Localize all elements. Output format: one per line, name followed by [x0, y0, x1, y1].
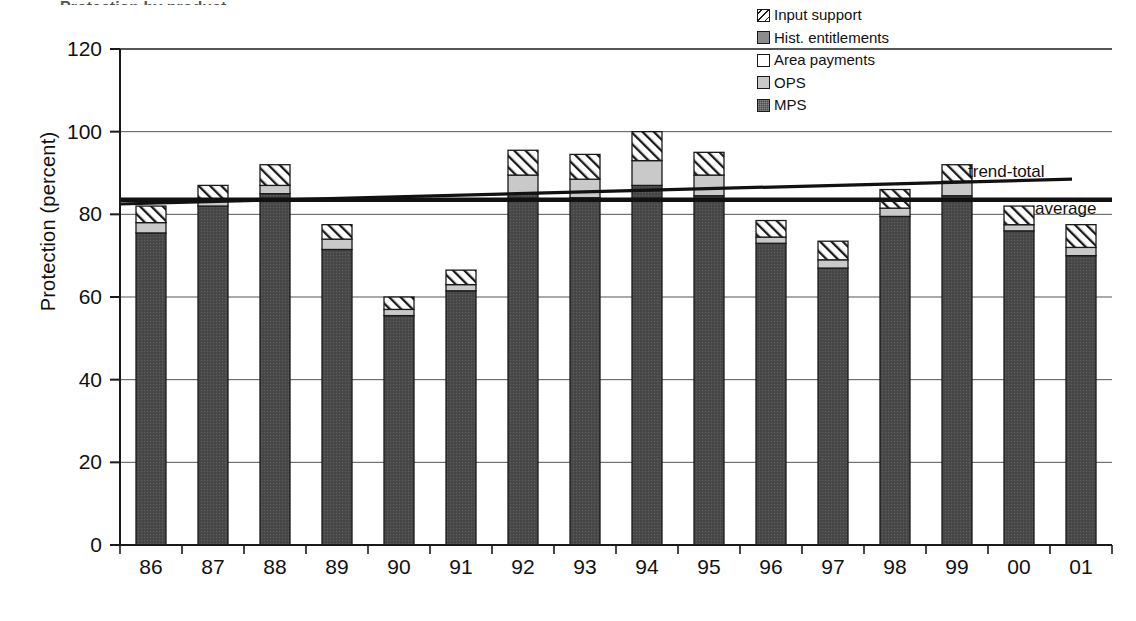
gray-swatch-icon [757, 31, 770, 44]
plot-area [0, 0, 1136, 621]
bar-segment [570, 154, 600, 179]
bar-segment [1066, 225, 1096, 248]
bar-segment [136, 206, 166, 223]
bar-segment [570, 198, 600, 545]
bar-segment [942, 196, 972, 545]
legend-item: Area payments [757, 49, 889, 72]
bar-segment [136, 233, 166, 545]
bar-segment [880, 216, 910, 545]
bar-segment [136, 223, 166, 233]
legend-label: MPS [774, 94, 807, 117]
bar-segment [446, 270, 476, 284]
hatch-swatch-icon [757, 9, 770, 22]
bar-segment [694, 196, 724, 545]
bar-segment [322, 249, 352, 545]
bar-segment [756, 243, 786, 545]
white-swatch-icon [757, 54, 770, 67]
legend-item: MPS [757, 94, 889, 117]
bar-segment [384, 297, 414, 309]
legend-label: OPS [774, 72, 806, 95]
bar-segment [508, 150, 538, 175]
legend-label: Area payments [774, 49, 875, 72]
legend: Input support Hist. entitlements Area pa… [757, 4, 889, 117]
bar-segment [1004, 231, 1034, 545]
bar-segment [818, 260, 848, 268]
lightgray-swatch-icon [757, 76, 770, 89]
legend-item: Hist. entitlements [757, 27, 889, 50]
bar-segment [260, 165, 290, 186]
bar-segment [632, 161, 662, 186]
bar-segment [384, 309, 414, 315]
legend-item: OPS [757, 72, 889, 95]
bars [136, 132, 1096, 545]
bar-segment [508, 194, 538, 545]
bar-segment [1004, 225, 1034, 231]
bar-segment [818, 241, 848, 260]
bar-segment [384, 316, 414, 545]
dark-swatch-icon [757, 99, 770, 112]
bar-segment [632, 185, 662, 545]
bar-segment [756, 237, 786, 243]
legend-label: Input support [774, 4, 862, 27]
legend-item: Input support [757, 4, 889, 27]
bar-segment [322, 239, 352, 249]
average-label: average [1035, 200, 1096, 217]
bar-segment [570, 179, 600, 198]
bar-segment [260, 194, 290, 545]
bar-segment [508, 175, 538, 194]
bar-segment [1066, 247, 1096, 255]
bar-segment [1004, 206, 1034, 225]
bar-segment [880, 208, 910, 216]
bar-segment [632, 132, 662, 161]
bar-segment [818, 268, 848, 545]
protection-bar-chart: Protection by product Protection (percen… [0, 0, 1136, 621]
bar-segment [446, 291, 476, 545]
legend-label: Hist. entitlements [774, 27, 889, 50]
bar-segment [260, 185, 290, 193]
bar-segment [756, 221, 786, 238]
bar-segment [446, 285, 476, 291]
bar-segment [694, 152, 724, 175]
bar-segment [198, 206, 228, 545]
bar-segment [1066, 256, 1096, 545]
trend-total-label: trend-total [968, 163, 1045, 180]
bar-segment [694, 175, 724, 196]
bar-segment [322, 225, 352, 239]
